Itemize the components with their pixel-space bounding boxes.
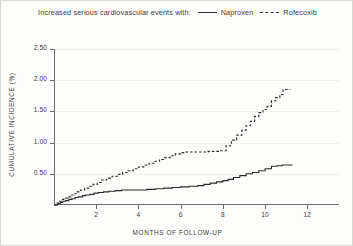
y-axis-tick-label: 1.00 — [34, 138, 47, 145]
y-axis-tick-label: 1.50 — [34, 106, 47, 113]
x-axis-tick — [223, 205, 224, 209]
legend-label-rofecoxib: Rofecoxib — [283, 8, 317, 17]
legend-caption: Increased serious cardiovascular events … — [38, 8, 191, 17]
x-axis-tick-label: 10 — [261, 211, 269, 218]
x-axis-tick-label: 4 — [137, 211, 141, 218]
x-axis-tick — [96, 205, 97, 209]
chart-legend: Increased serious cardiovascular events … — [1, 8, 353, 17]
x-axis-tick-label: 2 — [94, 211, 98, 218]
dashed-line-icon — [260, 12, 279, 13]
cumulative-incidence-chart: Increased serious cardiovascular events … — [0, 0, 353, 246]
x-axis-tick — [265, 205, 266, 209]
x-axis-tick-label: 12 — [304, 211, 312, 218]
x-axis-title: MONTHS OF FOLLOW-UP — [1, 229, 353, 236]
series-line-naproxen — [54, 165, 293, 205]
x-axis-tick — [181, 205, 182, 209]
plot-area: 0.501.001.502.002.50 24681012 — [54, 49, 339, 205]
x-axis-tick-label: 6 — [179, 211, 183, 218]
x-axis-tick-label: 8 — [221, 211, 225, 218]
y-axis-title-text: CUMULATIVE INCIDENCE (%) — [8, 72, 15, 176]
y-axis-tick-label: 2.00 — [34, 75, 47, 82]
y-axis-tick-label: 0.50 — [34, 169, 47, 176]
solid-line-icon — [198, 12, 217, 13]
y-axis-tick-label: 2.50 — [34, 44, 47, 51]
legend-entry-rofecoxib: Rofecoxib — [260, 8, 317, 17]
legend-label-naproxen: Naproxen — [221, 8, 254, 17]
series-curves — [54, 49, 339, 205]
x-axis-tick — [138, 205, 139, 209]
legend-entry-naproxen: Naproxen — [198, 8, 254, 17]
y-axis-title: CUMULATIVE INCIDENCE (%) — [3, 1, 19, 246]
x-axis-tick — [307, 205, 308, 209]
